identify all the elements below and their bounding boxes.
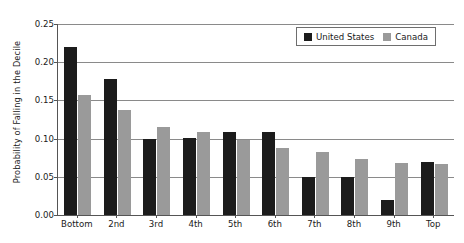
chart-legend: United States Canada [296, 27, 436, 46]
x-axis-tick-label: Bottom [57, 217, 97, 231]
bar [302, 177, 315, 215]
bar-group [414, 24, 454, 215]
bar-group [58, 24, 98, 215]
bar-group [256, 24, 296, 215]
bar [183, 138, 196, 215]
bar [223, 132, 236, 215]
x-axis-tick-label: 4th [176, 217, 216, 231]
y-axis-tick-label: 0.15 [24, 95, 54, 105]
bar-group [335, 24, 375, 215]
legend-label-united-states: United States [316, 32, 374, 42]
x-axis-tick-label: 7th [295, 217, 335, 231]
legend-entry-canada: Canada [383, 32, 428, 42]
black-square-swatch-icon [304, 33, 312, 41]
y-axis-tick-label: 0.00 [24, 210, 54, 220]
bar [341, 177, 354, 215]
bar [381, 200, 394, 215]
bar [316, 152, 329, 215]
bar-group [137, 24, 177, 215]
legend-label-canada: Canada [395, 32, 428, 42]
bar [421, 162, 434, 215]
bar-group [375, 24, 415, 215]
x-axis-tick-label: 8th [334, 217, 374, 231]
gray-square-swatch-icon [383, 33, 391, 41]
y-axis-tick-label: 0.20 [24, 57, 54, 67]
bar [104, 79, 117, 215]
legend-entry-united-states: United States [304, 32, 374, 42]
bar [237, 140, 250, 215]
bar [78, 95, 91, 215]
bar [395, 163, 408, 215]
bar [262, 132, 275, 215]
bar [435, 164, 448, 215]
bar-group [296, 24, 336, 215]
x-axis-tick-label: 6th [255, 217, 295, 231]
bar-chart: Probability of Falling in the Decile 0.0… [0, 0, 464, 243]
plot-area [57, 24, 454, 216]
bars-layer [58, 24, 454, 215]
bar [64, 47, 77, 215]
y-axis-tick-label: 0.25 [24, 19, 54, 29]
x-axis-tick-label: Top [413, 217, 453, 231]
y-axis-tick-label: 0.05 [24, 172, 54, 182]
bar [118, 110, 131, 215]
x-axis-tick-label: 9th [374, 217, 414, 231]
y-axis-tick-label: 0.10 [24, 134, 54, 144]
bar-group [216, 24, 256, 215]
bar-group [177, 24, 217, 215]
bar [143, 139, 156, 215]
x-axis-tick-label: 5th [215, 217, 255, 231]
y-axis-tick-labels: 0.000.050.100.150.200.25 [22, 0, 54, 243]
x-axis-tick-label: 2nd [97, 217, 137, 231]
bar [355, 159, 368, 215]
bar [157, 127, 170, 215]
x-axis-tick-labels: Bottom2nd3rd4th5th6th7th8th9thTop [57, 217, 453, 233]
bar [276, 148, 289, 215]
x-axis-tick-label: 3rd [136, 217, 176, 231]
bar-group [98, 24, 138, 215]
bar [197, 132, 210, 215]
